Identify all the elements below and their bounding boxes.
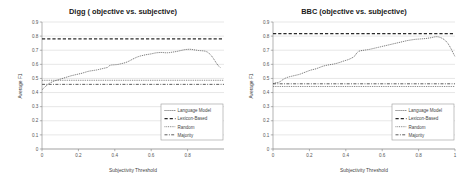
legend-label-random[interactable]: Random bbox=[408, 125, 425, 130]
legend-bbc[interactable]: Language ModelLexicon-BasedRandomMajorit… bbox=[392, 104, 454, 140]
y-tick-label: 0.2 bbox=[32, 118, 39, 123]
y-tick-label: 0.8 bbox=[263, 34, 270, 39]
legend-label-random[interactable]: Random bbox=[178, 125, 195, 130]
x-tick-label: 0.4 bbox=[342, 153, 349, 158]
bbc-chart-svg: BBC (objective vs. subjective) 00.10.20.… bbox=[231, 0, 461, 182]
y-tick-label: 0.9 bbox=[32, 20, 39, 25]
y-tick-label: 0.5 bbox=[32, 76, 39, 81]
legend-label-language-model[interactable]: Language Model bbox=[408, 108, 442, 113]
y-tick-label: 0.7 bbox=[32, 48, 39, 53]
x-tick-label: 0.2 bbox=[306, 153, 313, 158]
figure-container: Digg ( objective vs. subjective) 00.10.2… bbox=[0, 0, 461, 182]
legend-label-lexicon-based[interactable]: Lexicon-Based bbox=[178, 116, 208, 121]
x-axis-title: Subjectivity Threshold bbox=[340, 168, 388, 173]
y-tick-label: 0.2 bbox=[263, 118, 270, 123]
x-tick-label: 0.6 bbox=[148, 153, 155, 158]
legend-digg[interactable]: Language ModelLexicon-BasedRandomMajorit… bbox=[161, 104, 223, 140]
chart-panel-bbc: BBC (objective vs. subjective) 00.10.20.… bbox=[231, 0, 461, 182]
y-tick-label: 0.6 bbox=[32, 62, 39, 67]
y-tick-label: 0.5 bbox=[263, 76, 270, 81]
y-tick-label: 0.3 bbox=[263, 104, 270, 109]
y-tick-label: 0.4 bbox=[263, 90, 270, 95]
y-tick-label: 0.1 bbox=[32, 133, 39, 138]
y-tick-label: 0 bbox=[36, 147, 39, 152]
x-tick-label: 1 bbox=[453, 153, 456, 158]
x-tick-label: 0 bbox=[271, 153, 274, 158]
y-tick-label: 0.8 bbox=[32, 34, 39, 39]
y-tick-label: 0.7 bbox=[263, 48, 270, 53]
legend-label-majority[interactable]: Majority bbox=[408, 133, 425, 138]
y-axis-title: Average F1 bbox=[249, 73, 254, 98]
x-axis-title: Subjectivity Threshold bbox=[109, 168, 157, 173]
y-axis-title: Average F1 bbox=[18, 73, 23, 98]
x-tick-label: 0 bbox=[41, 153, 44, 158]
y-tick-label: 0.3 bbox=[32, 104, 39, 109]
y-tick-label: 0.4 bbox=[32, 90, 39, 95]
x-tick-label: 0.4 bbox=[112, 153, 119, 158]
x-tick-label: 0.8 bbox=[415, 153, 422, 158]
y-tick-label: 0.6 bbox=[263, 62, 270, 67]
legend-label-language-model[interactable]: Language Model bbox=[178, 108, 212, 113]
chart-title: BBC (objective vs. subjective) bbox=[301, 7, 407, 16]
chart-title: Digg ( objective vs. subjective) bbox=[69, 7, 178, 16]
x-tick-label: 0.2 bbox=[75, 153, 82, 158]
y-tick-label: 0.1 bbox=[263, 133, 270, 138]
legend-label-majority[interactable]: Majority bbox=[178, 133, 195, 138]
digg-chart-svg: Digg ( objective vs. subjective) 00.10.2… bbox=[0, 0, 231, 182]
chart-panel-digg: Digg ( objective vs. subjective) 00.10.2… bbox=[0, 0, 231, 182]
y-tick-label: 0 bbox=[266, 147, 269, 152]
x-tick-label: 0.6 bbox=[379, 153, 386, 158]
x-tick-label: 0.8 bbox=[184, 153, 191, 158]
legend-label-lexicon-based[interactable]: Lexicon-Based bbox=[408, 116, 438, 121]
y-tick-label: 0.9 bbox=[263, 20, 270, 25]
